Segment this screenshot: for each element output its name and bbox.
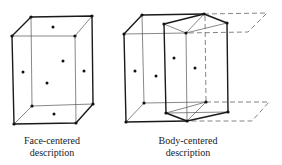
body-centered-caption: Body-centered description <box>128 135 248 159</box>
caption-line-2: description <box>0 147 112 159</box>
caption-line-1: Body-centered <box>128 135 248 147</box>
caption-line-1: Face-centered <box>0 135 112 147</box>
face-centered-caption: Face-centered description <box>0 135 112 159</box>
face-centered-cell <box>10 14 94 125</box>
body-centered-cell <box>122 12 269 123</box>
caption-line-2: description <box>128 147 248 159</box>
